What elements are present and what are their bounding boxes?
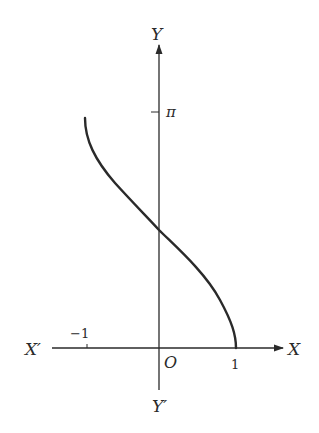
- tick-label-x-neg-one: −1: [70, 326, 89, 341]
- origin-label: O: [164, 353, 177, 372]
- x-prime-axis-label: X′: [23, 339, 41, 359]
- arccos-graph: Y Y′ X X′ O 1 −1 π: [0, 0, 319, 433]
- x-axis-label: X: [286, 339, 301, 359]
- y-prime-axis-label: Y′: [152, 396, 167, 416]
- tick-label-x-one: 1: [231, 357, 239, 372]
- arccos-curve: [85, 118, 236, 348]
- y-axis-label: Y: [151, 24, 164, 44]
- tick-label-y-pi: π: [165, 103, 177, 121]
